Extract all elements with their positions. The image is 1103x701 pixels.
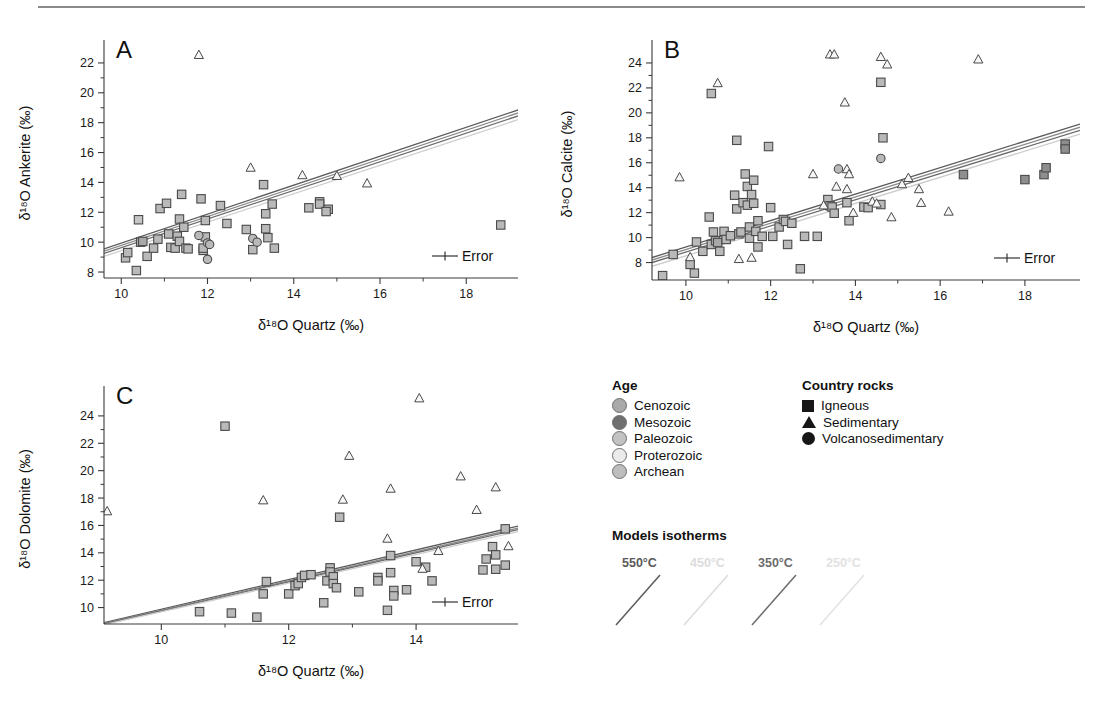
- data-point-square: [497, 221, 505, 229]
- data-point-circle: [877, 154, 885, 162]
- data-point-triangle: [456, 472, 465, 480]
- plot-area: [652, 50, 1080, 280]
- y-tick-label: 16: [80, 519, 94, 533]
- data-point-square: [177, 190, 185, 198]
- data-point-square: [690, 269, 698, 277]
- data-point-triangle: [916, 198, 925, 206]
- legend-age-label: Archean: [634, 464, 684, 479]
- data-point-square: [705, 213, 713, 221]
- plot-area: [103, 394, 518, 625]
- data-point-square: [223, 219, 231, 227]
- data-point-square: [262, 225, 270, 233]
- legend-country-rock-item[interactable]: Volcanosedimentary: [802, 431, 944, 446]
- data-point-square: [285, 590, 293, 598]
- data-point-square: [699, 247, 707, 255]
- data-point-square: [713, 238, 721, 246]
- data-point-triangle: [472, 505, 481, 513]
- data-point-triangle: [974, 55, 983, 63]
- data-point-square: [412, 558, 420, 566]
- data-point-triangle: [842, 184, 851, 192]
- legend-age-item[interactable]: Archean: [612, 464, 702, 479]
- legend-country-rock-item[interactable]: Sedimentary: [802, 415, 944, 430]
- data-point-square: [139, 237, 147, 245]
- legend-country-rocks-title: Country rocks: [802, 378, 944, 393]
- x-axis-title: δ¹⁸O Quartz (‰): [258, 663, 364, 679]
- legend-country-rock-label: Volcanosedimentary: [822, 431, 944, 446]
- data-point-square: [788, 219, 796, 227]
- x-tick-label: 10: [114, 287, 128, 301]
- panel-letter: C: [116, 382, 133, 409]
- data-point-triangle: [713, 78, 722, 86]
- data-point-square: [959, 170, 967, 178]
- data-point-square: [264, 233, 272, 241]
- data-point-square: [154, 235, 162, 243]
- legend-age-title: Age: [612, 378, 702, 393]
- x-tick-label: 18: [459, 287, 473, 301]
- isotherm-legend-label: 550°C: [622, 556, 657, 570]
- data-point-square: [764, 142, 772, 150]
- legend-age-item[interactable]: Cenozoic: [612, 398, 702, 413]
- data-point-square: [402, 586, 410, 594]
- y-axis-title: δ¹⁸O Ankerite (‰): [17, 106, 33, 221]
- x-tick-label: 12: [282, 633, 296, 647]
- data-point-triangle: [734, 254, 743, 262]
- x-tick-label: 16: [933, 289, 947, 303]
- data-point-triangle: [383, 534, 392, 542]
- data-point-triangle: [832, 182, 841, 190]
- data-point-circle: [253, 238, 261, 246]
- y-tick-label: 14: [628, 181, 642, 195]
- y-tick-label: 16: [628, 156, 642, 170]
- legend-age-item[interactable]: Proterozoic: [612, 448, 702, 463]
- data-point-square: [259, 590, 267, 598]
- data-point-triangle: [849, 208, 858, 216]
- data-point-square: [164, 230, 172, 238]
- y-tick-label: 12: [628, 206, 642, 220]
- data-point-square: [479, 566, 487, 574]
- y-tick-label: 12: [80, 574, 94, 588]
- data-point-square: [766, 203, 774, 211]
- y-tick-label: 20: [628, 106, 642, 120]
- data-point-square: [132, 266, 140, 274]
- legend-country-rock-label: Igneous: [821, 398, 869, 413]
- legend-country-rock-item[interactable]: Igneous: [802, 398, 944, 413]
- data-point-square: [737, 228, 745, 236]
- data-point-square: [800, 232, 808, 240]
- legend-models-isotherms: Models isotherms 550°C450°C350°C250°C: [612, 528, 912, 633]
- isotherm-legend-label: 450°C: [690, 556, 725, 570]
- data-point-triangle: [362, 179, 371, 187]
- y-tick-label: 10: [80, 236, 94, 250]
- y-tick-label: 8: [635, 256, 642, 270]
- data-point-square: [262, 577, 270, 585]
- data-point-square: [268, 200, 276, 208]
- data-point-square: [501, 525, 509, 533]
- panel-a-ankerite: 8101214161820221012141618Aδ¹⁸O Quartz (‰…: [0, 18, 540, 358]
- error-legend: Error: [432, 594, 493, 610]
- data-point-square: [879, 134, 887, 142]
- data-point-square: [428, 577, 436, 585]
- figure-top-rule: [38, 6, 1085, 8]
- y-tick-label: 18: [628, 131, 642, 145]
- data-point-circle: [195, 231, 203, 239]
- legend-age-label: Mesozoic: [634, 415, 691, 430]
- data-point-square: [843, 198, 851, 206]
- data-point-triangle: [338, 495, 347, 503]
- y-tick-label: 18: [80, 492, 94, 506]
- data-point-square: [758, 232, 766, 240]
- age-circle-icon: [612, 464, 627, 479]
- y-tick-label: 12: [80, 206, 94, 220]
- legend-age-item[interactable]: Paleozoic: [612, 431, 702, 446]
- age-circle-icon: [612, 431, 627, 446]
- isotherm-line: [104, 110, 518, 249]
- data-point-square: [754, 243, 762, 251]
- error-legend: Error: [432, 248, 493, 264]
- age-circle-icon: [612, 415, 627, 430]
- legend-age-item[interactable]: Mesozoic: [612, 415, 702, 430]
- data-point-triangle: [808, 169, 817, 177]
- x-tick-label: 10: [679, 289, 693, 303]
- y-tick-label: 22: [628, 81, 642, 95]
- legend-age-label: Paleozoic: [634, 431, 693, 446]
- data-point-square: [1021, 175, 1029, 183]
- data-point-square: [783, 240, 791, 248]
- x-axis-title: δ¹⁸O Quartz (‰): [258, 317, 364, 333]
- panel-b-calcite: 810121416182022241012141618Bδ¹⁸O Quartz …: [540, 18, 1103, 358]
